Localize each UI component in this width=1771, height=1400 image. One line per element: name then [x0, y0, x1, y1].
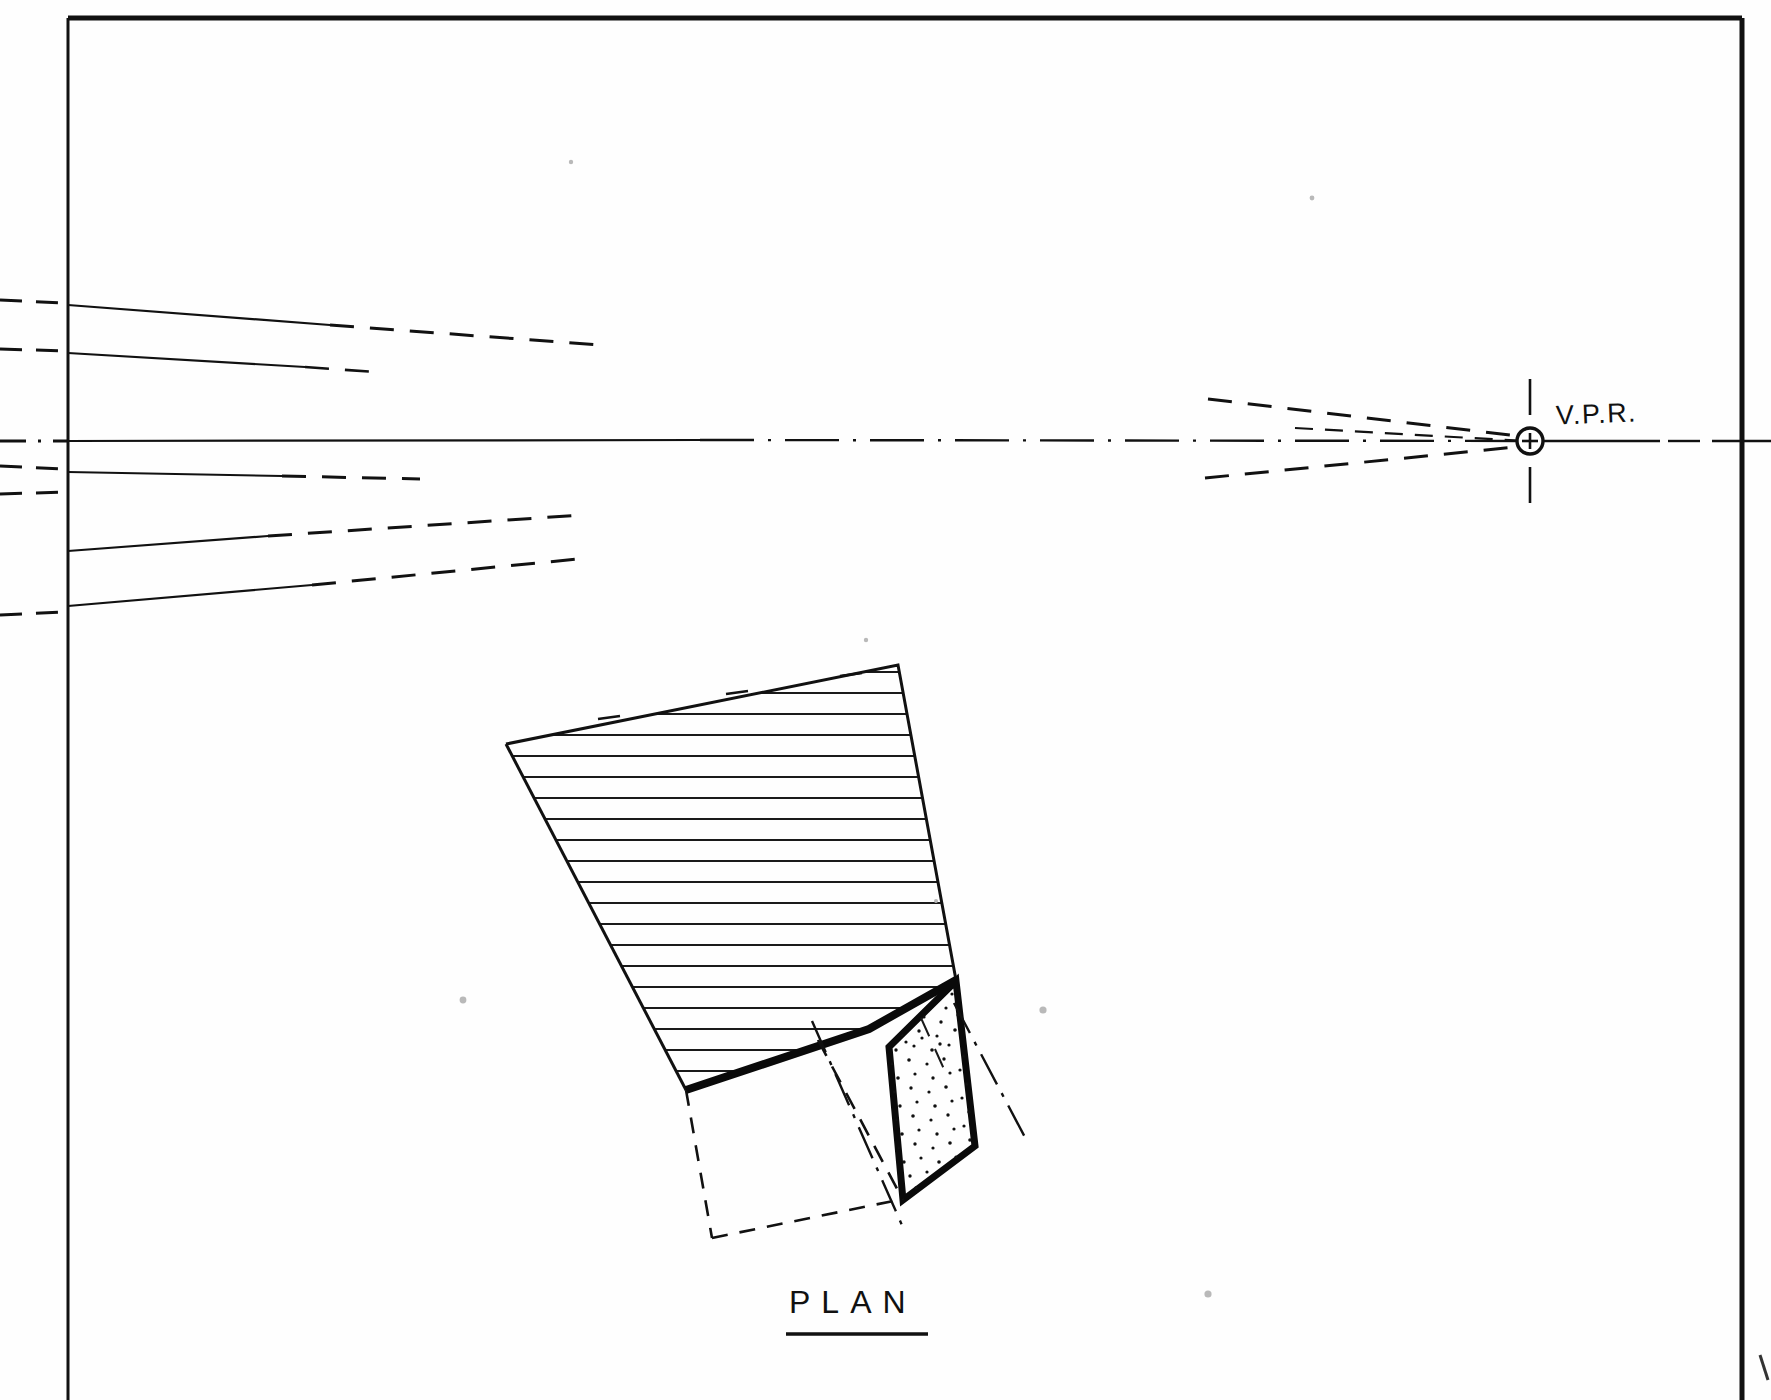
proj-dash-left — [686, 1090, 712, 1238]
conv4-solid — [68, 472, 282, 476]
conv4-left-dash — [0, 466, 66, 469]
convergence-line-6 — [0, 558, 588, 615]
conv6-left-dash — [0, 612, 66, 615]
conv5-solid — [68, 536, 268, 551]
vpr-dash-lower — [1205, 446, 1526, 478]
conv4-right-dash — [282, 476, 420, 479]
drawing-sheet: V.P.R. PLAN — [0, 0, 1771, 1400]
vpr-converging-dashes — [1205, 399, 1526, 478]
edge-tick-1 — [598, 716, 620, 719]
convergence-line-1 — [0, 300, 600, 345]
horizon-line-solid-left — [68, 440, 700, 441]
conv1-solid — [68, 305, 330, 325]
vpr-dash-mid — [1295, 428, 1524, 441]
conv1-right-dash — [330, 325, 600, 345]
perspective-construction-svg — [0, 0, 1771, 1400]
convergence-line-4 — [0, 466, 420, 479]
horizon-line-dashdot-center — [700, 440, 1528, 441]
vanishing-point-right-marker[interactable] — [1517, 379, 1543, 503]
proj-dash-bottom — [712, 1200, 898, 1238]
edge-tick-2 — [726, 691, 748, 694]
conv6-right-dash — [312, 558, 588, 585]
plan-projection-lines — [686, 1003, 1028, 1238]
convergence-line-5 — [0, 492, 582, 551]
hatched-plane-upper-edges — [506, 665, 956, 980]
border-corner-tick — [1760, 1355, 1768, 1380]
plan-title-label: PLAN — [789, 1284, 917, 1321]
hatched-plane-left-edge — [506, 744, 686, 1090]
plan-hatched-plane — [480, 665, 980, 1090]
convergence-line-2 — [0, 349, 375, 372]
conv2-left-dash — [0, 349, 66, 351]
conv1-left-dash — [0, 300, 66, 303]
proj-dash-inner — [921, 1018, 948, 1078]
conv5-left-dash — [0, 492, 66, 494]
conv6-solid — [68, 585, 312, 606]
vanishing-point-right-label: V.P.R. — [1555, 397, 1637, 431]
conv5-right-dash — [268, 515, 582, 536]
edge-tick-3 — [840, 673, 862, 676]
conv2-right-dash — [305, 367, 375, 372]
conv2-solid — [68, 353, 305, 367]
